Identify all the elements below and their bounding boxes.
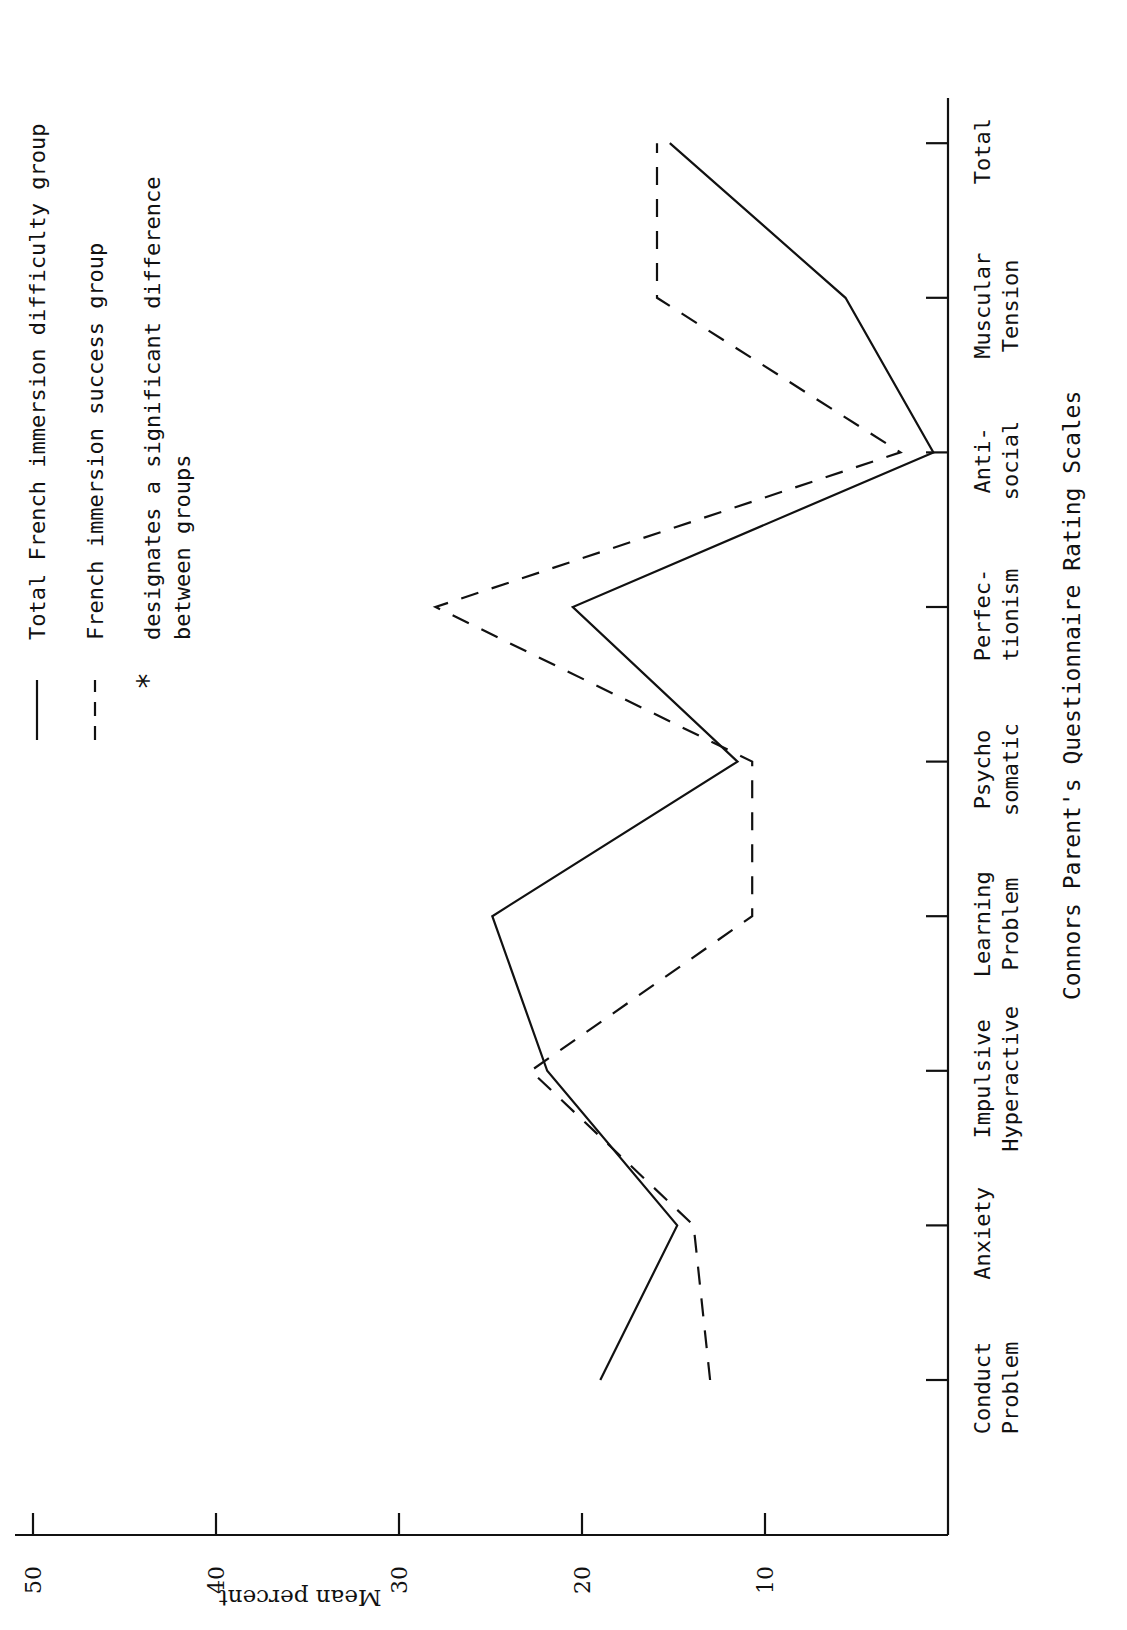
series-success-group-line <box>436 143 901 1380</box>
legend-solid-label: Total French immersion difficulty group <box>25 123 50 640</box>
category-label: Tension <box>998 259 1023 352</box>
y-tick-label: 20 <box>570 1566 595 1594</box>
category-label: Conduct <box>970 1342 995 1435</box>
legend-star-label-line1: designates a significant difference <box>140 176 165 640</box>
category-label: Muscular <box>970 253 995 359</box>
significance-star-icon: * <box>130 672 165 690</box>
series-difficulty-group-line <box>492 143 933 1380</box>
x-axis-title: Connors Parent's Questionnaire Rating Sc… <box>1059 391 1085 1000</box>
category-label: Total <box>970 118 995 184</box>
category-label: Anti- <box>970 427 995 493</box>
y-axis-ticks: 5040302010 <box>21 1513 778 1594</box>
line-chart: 5040302010 ConductProblemAnxietyImpulsiv… <box>0 0 1127 1630</box>
category-label: somatic <box>998 723 1023 816</box>
category-label: Problem <box>998 1342 1023 1435</box>
legend: Total French immersion difficulty group … <box>25 123 195 740</box>
category-label: Anxiety <box>970 1187 995 1280</box>
y-tick-label: 30 <box>387 1566 412 1594</box>
y-tick-label: 10 <box>753 1566 778 1594</box>
category-label: social <box>998 421 1023 500</box>
category-label: Perfec- <box>970 569 995 662</box>
x-axis-ticks <box>926 143 948 1380</box>
y-axis-label: Mean percent <box>218 1585 382 1611</box>
category-label: Impulsive <box>970 1019 995 1138</box>
legend-dashed-label: French immersion success group <box>83 243 108 640</box>
y-tick-label: 50 <box>21 1566 46 1594</box>
category-label: Hyperactive <box>998 1006 1023 1152</box>
category-label: Psycho <box>970 730 995 809</box>
category-label: Learning <box>970 871 995 977</box>
category-label: tionism <box>998 569 1023 662</box>
category-labels: ConductProblemAnxietyImpulsiveHyperactiv… <box>970 118 1023 1434</box>
category-label: Problem <box>998 878 1023 971</box>
legend-star-label-line2: between groups <box>170 455 195 640</box>
